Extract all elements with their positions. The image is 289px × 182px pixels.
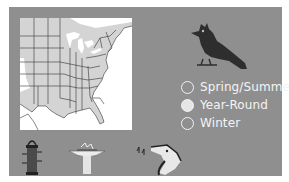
legend-label: Spring/Summer: [200, 80, 289, 94]
legend-label: Winter: [200, 116, 240, 130]
us-map-icon: [20, 18, 132, 130]
range-map: [20, 18, 132, 130]
bird-info-card: Spring/Summer Year-Round Winter: [9, 7, 282, 176]
spring-summer-swatch-icon: [181, 81, 194, 94]
legend-label: Year-Round: [200, 98, 268, 112]
year-round-swatch-icon: [181, 99, 194, 112]
winter-swatch-icon: [181, 117, 194, 130]
tube-feeder-icon: [21, 139, 43, 181]
singing-bird-head-icon: [135, 141, 185, 181]
legend-item-year-round: Year-Round: [181, 96, 289, 114]
habitat-icons: [9, 139, 282, 179]
legend-item-spring-summer: Spring/Summer: [181, 78, 289, 96]
legend-item-winter: Winter: [181, 114, 289, 132]
birdbath-icon: [67, 141, 107, 181]
bird-silhouette-icon: [187, 19, 251, 73]
season-legend: Spring/Summer Year-Round Winter: [181, 78, 289, 132]
